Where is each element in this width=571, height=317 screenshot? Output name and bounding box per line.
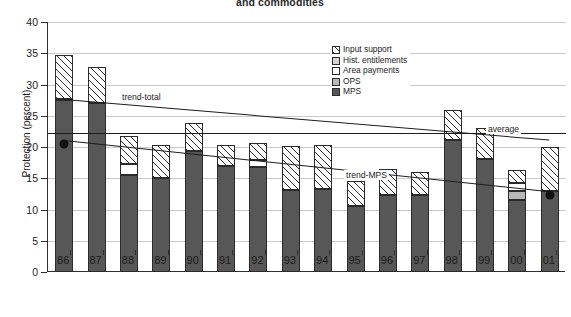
legend-swatch-icon [332, 46, 340, 54]
y-tick-mark [41, 178, 47, 179]
y-axis-ticks: 0510152025303540 [12, 0, 38, 317]
chart-legend: Input supportHist. entitlementsArea paym… [330, 44, 410, 100]
y-tick-label: 15 [12, 172, 38, 184]
bar-group[interactable] [508, 22, 526, 272]
bar-segment-input[interactable] [508, 170, 526, 183]
bar-group[interactable] [249, 22, 267, 272]
bar-segment-input[interactable] [55, 55, 73, 99]
x-tick-mark [232, 250, 233, 255]
x-tick-mark [394, 250, 395, 255]
x-tick-mark [70, 250, 71, 255]
data-point-marker [545, 191, 554, 200]
x-tick-label: 87 [81, 254, 111, 266]
x-tick-mark [297, 250, 298, 255]
y-tick-label: 35 [12, 47, 38, 59]
legend-swatch-icon [332, 67, 340, 75]
x-tick-label: 86 [48, 254, 78, 266]
average-label: average [486, 124, 521, 134]
legend-swatch-icon [332, 57, 340, 65]
y-tick-mark [41, 22, 47, 23]
y-tick-mark [41, 53, 47, 54]
bar-group[interactable] [444, 22, 462, 272]
x-tick-mark [524, 250, 525, 255]
x-tick-label: 00 [501, 254, 531, 266]
bar-group[interactable] [217, 22, 235, 272]
y-tick-label: 5 [12, 235, 38, 247]
x-tick-mark [362, 250, 363, 255]
bar-segment-ops[interactable] [508, 191, 526, 200]
y-tick-label: 0 [12, 266, 38, 278]
legend-label: Hist. entitlements [343, 56, 407, 66]
y-tick-label: 30 [12, 79, 38, 91]
x-tick-label: 88 [113, 254, 143, 266]
x-tick-label: 01 [534, 254, 564, 266]
y-tick-mark [41, 241, 47, 242]
x-tick-label: 90 [178, 254, 208, 266]
y-tick-mark [41, 272, 47, 273]
bar-group[interactable] [88, 22, 106, 272]
x-tick-label: 95 [340, 254, 370, 266]
x-tick-label: 93 [275, 254, 305, 266]
x-tick-label: 91 [210, 254, 240, 266]
legend-label: OPS [343, 77, 361, 87]
plot-area: trend-totaltrend-MPSaverage [47, 22, 565, 272]
x-tick-label: 92 [242, 254, 272, 266]
bar-segment-mps[interactable] [88, 103, 106, 272]
bar-segment-input[interactable] [120, 136, 138, 164]
x-tick-mark [459, 250, 460, 255]
data-point-marker [60, 140, 69, 149]
y-tick-mark [41, 85, 47, 86]
legend-label: Area payments [343, 66, 399, 76]
chart-title: and commodities [115, 0, 445, 8]
x-tick-label: 98 [437, 254, 467, 266]
y-tick-label: 10 [12, 204, 38, 216]
y-tick-label: 20 [12, 141, 38, 153]
bar-group[interactable] [411, 22, 429, 272]
bar-segment-mps[interactable] [55, 100, 73, 272]
x-tick-mark [265, 250, 266, 255]
x-tick-mark [200, 250, 201, 255]
y-tick-mark [41, 116, 47, 117]
bar-group[interactable] [152, 22, 170, 272]
x-tick-mark [135, 250, 136, 255]
trend-total-label: trend-total [120, 92, 163, 102]
legend-item: MPS [332, 87, 407, 98]
bar-group[interactable] [282, 22, 300, 272]
x-tick-mark [556, 250, 557, 255]
legend-swatch-icon [332, 78, 340, 86]
x-tick-label: 99 [469, 254, 499, 266]
bar-segment-input[interactable] [541, 147, 559, 191]
x-tick-mark [103, 250, 104, 255]
x-tick-label: 97 [404, 254, 434, 266]
bar-segment-area[interactable] [120, 164, 138, 175]
x-tick-mark [329, 250, 330, 255]
legend-label: MPS [343, 87, 361, 97]
x-tick-mark [168, 250, 169, 255]
y-tick-mark [41, 210, 47, 211]
bar-segment-input[interactable] [282, 146, 300, 190]
legend-item: Area payments [332, 66, 407, 77]
bar-segment-input[interactable] [185, 123, 203, 151]
legend-swatch-icon [332, 88, 340, 96]
legend-item: Input support [332, 45, 407, 56]
x-tick-label: 94 [307, 254, 337, 266]
y-tick-label: 25 [12, 110, 38, 122]
y-tick-label: 40 [12, 16, 38, 28]
x-tick-mark [491, 250, 492, 255]
chart-container: and commodities Protection (percent) 051… [0, 0, 571, 317]
bar-segment-input[interactable] [444, 110, 462, 140]
x-tick-label: 89 [145, 254, 175, 266]
bar-segment-input[interactable] [88, 67, 106, 103]
legend-label: Input support [343, 45, 392, 55]
x-tick-label: 96 [372, 254, 402, 266]
bar-segment-input[interactable] [249, 143, 267, 159]
y-tick-mark [41, 147, 47, 148]
bar-group[interactable] [476, 22, 494, 272]
bar-segment-input[interactable] [347, 181, 365, 206]
x-tick-mark [427, 250, 428, 255]
bar-group[interactable] [185, 22, 203, 272]
trend-mps-label: trend-MPS [344, 170, 389, 180]
bar-group[interactable] [541, 22, 559, 272]
bar-segment-input[interactable] [411, 172, 429, 195]
